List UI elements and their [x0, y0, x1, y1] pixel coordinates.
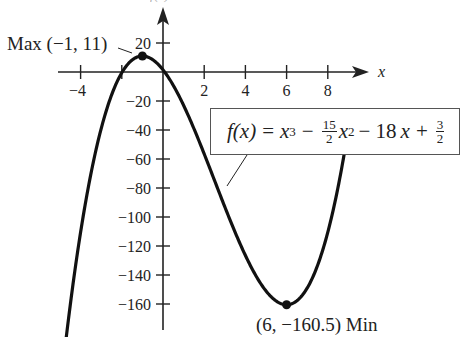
formula-minus: −: [302, 119, 314, 144]
y-tick-label: −80: [126, 180, 151, 197]
min-point-marker: [282, 300, 291, 309]
y-tick-label: −160: [118, 296, 151, 313]
x-tick-label: 6: [283, 82, 291, 99]
x-ticks: −42468: [69, 65, 332, 99]
axes: [58, 7, 369, 330]
y-tick-label: 20: [135, 35, 151, 52]
formula-lhs: f(x): [227, 119, 256, 144]
x-tick-label: 8: [324, 82, 332, 99]
x-tick-label: 2: [200, 82, 208, 99]
max-leader-line: [118, 48, 132, 53]
y-axis-label: f(x): [150, 0, 170, 3]
formula-term-x2: x: [339, 119, 348, 144]
formula-plus: +: [416, 119, 428, 144]
formula-box: f(x) = x3 − 15 2 x2 − 18 x + 3 2: [210, 108, 460, 155]
y-tick-label: −60: [126, 151, 151, 168]
y-tick-label: −40: [126, 122, 151, 139]
y-tick-label: −120: [118, 238, 151, 255]
max-point-marker: [138, 52, 147, 61]
formula-term-x: x: [401, 119, 410, 144]
frac-denominator: 2: [437, 132, 444, 145]
min-label: (6, −160.5) Min: [256, 314, 378, 336]
frac-denominator: 2: [326, 132, 333, 145]
formula-leader-line: [227, 155, 247, 186]
frac-numerator: 15: [322, 118, 337, 132]
formula-frac-15-2: 15 2: [322, 118, 337, 145]
formula-frac-3-2: 3 2: [436, 118, 445, 145]
y-tick-label: −100: [118, 209, 151, 226]
y-tick-label: −140: [118, 267, 151, 284]
x-tick-label: 4: [241, 82, 249, 99]
max-label: Max (−1, 11): [7, 33, 107, 55]
formula-minus-18: − 18: [359, 119, 397, 144]
x-tick-label: −4: [69, 82, 86, 99]
formula-term-x3: x: [280, 119, 289, 144]
formula-eq: =: [262, 119, 274, 144]
x-axis-label: x: [377, 63, 385, 80]
y-tick-label: −20: [126, 93, 151, 110]
y-ticks: 20−20−40−60−80−100−120−140−160: [118, 35, 170, 313]
frac-numerator: 3: [436, 118, 445, 132]
